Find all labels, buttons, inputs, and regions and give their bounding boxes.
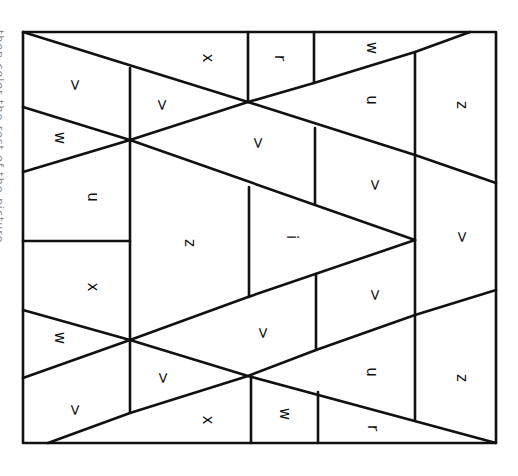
diagonal-line	[23, 107, 415, 240]
region-letter: >	[66, 79, 84, 92]
color-by-letter-puzzle: >xrw>wuz>u>zi>x>>w>uz>xwr	[0, 0, 518, 476]
region-letter: >	[154, 372, 172, 385]
region-letter: w	[51, 132, 69, 144]
region-letter: z	[181, 239, 199, 247]
region-letter: >	[366, 289, 384, 302]
region-letter: >	[453, 231, 471, 244]
region-letter: >	[249, 137, 267, 150]
region-letter: x	[199, 416, 217, 425]
region-letter: r	[364, 425, 382, 432]
region-letter: u	[84, 192, 102, 202]
region-letter: u	[363, 367, 381, 377]
region-letter: >	[66, 404, 84, 417]
region-letter: x	[84, 283, 102, 292]
region-letter: x	[199, 54, 217, 63]
region-letter: w	[363, 42, 381, 54]
region-letter: r	[271, 55, 289, 62]
region-letter: z	[453, 101, 471, 109]
region-letter: >	[366, 179, 384, 192]
region-letter: u	[363, 95, 381, 105]
region-letter: >	[254, 327, 272, 340]
region-letter: w	[276, 408, 294, 420]
diagonal-line	[23, 32, 496, 183]
puzzle-lines	[23, 32, 496, 443]
region-letter: w	[51, 332, 69, 344]
puzzle-frame	[23, 32, 496, 443]
region-letter: z	[453, 374, 471, 382]
diagonal-line	[23, 240, 415, 378]
region-letter: >	[153, 99, 171, 112]
diagonal-line	[48, 290, 496, 443]
region-letter: i	[283, 235, 301, 239]
